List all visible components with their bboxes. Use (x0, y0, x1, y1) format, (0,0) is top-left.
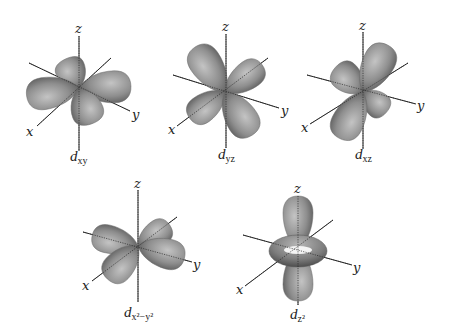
y-axis-label: y (280, 103, 289, 118)
y-axis-label: y (352, 260, 361, 275)
orbital-figure-dxy: xyzdxy (24, 21, 140, 166)
orbital-figures: xyzdxyxyzdyzxyzdxzxyzdx²−y²xyzdz² (24, 18, 425, 324)
d-orbitals-diagram: xyzdxyxyzdyzxyzdxzxyzdx²−y²xyzdz² (0, 0, 452, 336)
orbital-label: dxz (355, 146, 373, 164)
orbital-figure-dxz: xyzdxz (301, 18, 425, 164)
y-axis-label: y (131, 107, 140, 122)
y-axis-label: y (416, 98, 425, 113)
lobes (24, 53, 131, 130)
z-axis-label: z (293, 181, 301, 196)
orbital-figure-dyz: xyzdyz (168, 19, 289, 164)
x-axis-label: x (26, 124, 34, 139)
orbital-label: dz² (290, 306, 305, 324)
z-axis-label: z (133, 176, 141, 191)
orbital-label-subscript: yz (226, 153, 236, 164)
x-axis-label: x (82, 278, 90, 293)
orbital-label-subscript: x²−y² (132, 311, 154, 322)
orbital-label-subscript: xy (78, 155, 88, 166)
lobes (325, 38, 402, 146)
x-axis-label: x (301, 120, 309, 135)
x-axis-label: x (168, 122, 176, 137)
x-axis-label: x (236, 282, 244, 297)
orbital-label: dx²−y² (124, 304, 153, 322)
y-axis-label: y (192, 257, 201, 272)
orbital-figure-dz2: xyzdz² (236, 181, 361, 324)
lobes (89, 214, 188, 289)
z-axis-label: z (221, 19, 229, 34)
z-axis-label: z (358, 18, 366, 33)
orbital-label: dyz (218, 146, 236, 164)
z-axis-label: z (74, 21, 82, 36)
orbital-label-subscript: z² (298, 313, 305, 324)
orbital-label-subscript: xz (363, 153, 373, 164)
orbital-figure-dx2-y2: xyzdx²−y² (82, 176, 201, 322)
